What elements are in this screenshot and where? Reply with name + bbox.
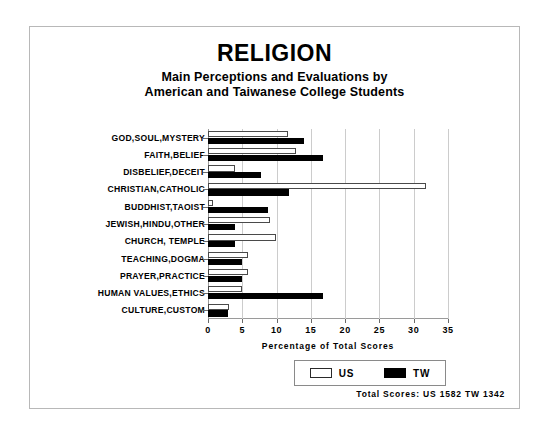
gridline — [379, 129, 380, 319]
bar-us — [208, 234, 276, 240]
total-scores-note: Total Scores: US 1582 TW 1342 — [30, 389, 505, 399]
bar-us — [208, 269, 248, 275]
bar-tw — [208, 276, 242, 282]
bar-tw — [208, 155, 323, 161]
x-axis-tick — [345, 319, 346, 323]
category-axis-labels: GOD,SOUL,MYSTERYFAITH,BELIEFDISBELIEF,DE… — [60, 129, 205, 319]
bar-us — [208, 217, 270, 223]
bar-us — [208, 200, 213, 206]
category-label: DISBELIEF,DECEIT — [123, 167, 205, 177]
category-label: CULTURE,CUSTOM — [122, 305, 205, 315]
chart-subtitle: Main Perceptions and Evaluations by Amer… — [30, 70, 519, 101]
category-label: CHRISTIAN,CATHOLIC — [108, 184, 205, 194]
category-label: BUDDHIST,TAOIST — [125, 202, 205, 212]
x-axis-tick — [242, 319, 243, 323]
x-axis-tick-label: 0 — [205, 325, 211, 335]
bar-tw — [208, 293, 323, 299]
legend-label-us: US — [339, 368, 355, 379]
bar-us — [208, 183, 426, 189]
bar-us — [208, 131, 288, 137]
category-label: CHURCH, TEMPLE — [125, 236, 205, 246]
bar-tw — [208, 241, 235, 247]
bar-tw — [208, 259, 242, 265]
chart-subtitle-line-1: Main Perceptions and Evaluations by — [30, 70, 519, 85]
legend-swatch-us-icon — [310, 368, 332, 378]
legend-swatch-tw-icon — [384, 368, 406, 378]
x-axis-tick-label: 25 — [374, 325, 385, 335]
bar-tw — [208, 310, 228, 316]
chart-title: RELIGION — [30, 41, 519, 65]
category-label: PRAYER,PRACTICE — [120, 271, 205, 281]
category-label: HUMAN VALUES,ETHICS — [98, 288, 205, 298]
bar-us — [208, 286, 242, 292]
bar-us — [208, 148, 296, 154]
chart-subtitle-line-2: American and Taiwanese College Students — [30, 85, 519, 100]
x-axis-tick — [277, 319, 278, 323]
x-axis-tick — [414, 319, 415, 323]
bar-tw — [208, 189, 289, 195]
bar-tw — [208, 207, 268, 213]
x-axis-tick — [379, 319, 380, 323]
gridline — [414, 129, 415, 319]
category-label: JEWISH,HINDU,OTHER — [105, 219, 205, 229]
x-axis-tick-label: 20 — [340, 325, 351, 335]
x-axis-line — [208, 318, 448, 319]
title-block: RELIGION Main Perceptions and Evaluation… — [30, 41, 519, 101]
gridline — [345, 129, 346, 319]
x-axis-tick-label: 5 — [239, 325, 245, 335]
x-axis-tick — [448, 319, 449, 323]
gridline — [448, 129, 449, 319]
plot-area: 05101520253035 — [208, 129, 448, 319]
chart-figure: RELIGION Main Perceptions and Evaluation… — [29, 26, 520, 409]
x-axis-tick-label: 35 — [442, 325, 453, 335]
bar-tw — [208, 138, 304, 144]
bar-tw — [208, 172, 261, 178]
x-axis-tick — [311, 319, 312, 323]
category-label: FAITH,BELIEF — [144, 150, 205, 160]
chart-legend: US TW — [294, 360, 446, 386]
legend-entry-us: US — [310, 368, 355, 379]
x-axis-tick-label: 30 — [408, 325, 419, 335]
bar-us — [208, 252, 248, 258]
legend-label-tw: TW — [413, 368, 430, 379]
x-axis-tick-label: 15 — [305, 325, 316, 335]
x-axis-title: Percentage of Total Scores — [208, 341, 448, 351]
bar-us — [208, 304, 229, 310]
legend-entry-tw: TW — [384, 368, 430, 379]
category-label: TEACHING,DOGMA — [121, 254, 205, 264]
bar-tw — [208, 224, 235, 230]
category-label: GOD,SOUL,MYSTERY — [112, 133, 205, 143]
x-axis-tick — [208, 319, 209, 323]
x-axis-tick-label: 10 — [271, 325, 282, 335]
bar-us — [208, 165, 235, 171]
